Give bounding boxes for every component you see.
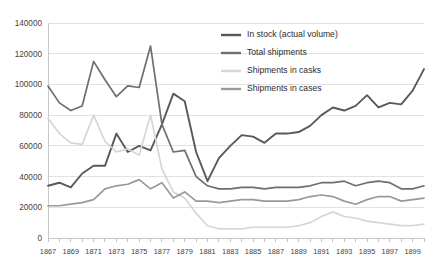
- series-line: [48, 46, 424, 189]
- x-tick-label: 1887: [268, 247, 284, 256]
- x-tick-label: 1879: [177, 247, 193, 256]
- y-tick-label: 80000: [19, 111, 42, 120]
- x-tick-label: 1867: [40, 247, 56, 256]
- legend-label: In stock (actual volume): [247, 29, 338, 39]
- legend-label: Total shipments: [247, 47, 307, 57]
- y-tick-label: 100000: [15, 80, 43, 89]
- x-axis-tick-labels: 1867186918711873187518771879188118831885…: [40, 247, 421, 256]
- y-axis-tick-labels: 020000400006000080000100000120000140000: [15, 19, 43, 243]
- x-tick-label: 1885: [245, 247, 261, 256]
- x-tick-label: 1877: [154, 247, 170, 256]
- x-axis-tickmarks: [48, 238, 424, 242]
- data-series-group: [48, 46, 424, 229]
- x-tick-label: 1869: [63, 247, 79, 256]
- x-tick-label: 1871: [85, 247, 101, 256]
- x-tick-label: 1873: [108, 247, 124, 256]
- series-line: [48, 69, 424, 187]
- series-line: [48, 115, 424, 229]
- y-tick-label: 60000: [19, 142, 42, 151]
- axis-lines: [48, 23, 424, 238]
- x-tick-label: 1895: [359, 247, 375, 256]
- chart-legend: In stock (actual volume)Total shipmentsS…: [221, 29, 338, 93]
- x-tick-label: 1881: [199, 247, 215, 256]
- x-tick-label: 1897: [382, 247, 398, 256]
- legend-label: Shipments in cases: [247, 83, 322, 93]
- y-tick-label: 140000: [15, 19, 43, 28]
- series-line: [48, 180, 424, 206]
- legend-label: Shipments in casks: [247, 65, 321, 75]
- y-tick-label: 0: [37, 234, 42, 243]
- x-tick-label: 1875: [131, 247, 147, 256]
- chart-canvas: 020000400006000080000100000120000140000 …: [0, 0, 437, 268]
- x-tick-label: 1883: [222, 247, 238, 256]
- y-tick-label: 120000: [15, 50, 43, 59]
- x-tick-label: 1893: [336, 247, 352, 256]
- line-chart: 020000400006000080000100000120000140000 …: [0, 0, 437, 268]
- x-tick-label: 1891: [313, 247, 329, 256]
- y-tick-label: 20000: [19, 203, 42, 212]
- x-tick-label: 1889: [290, 247, 306, 256]
- x-tick-label: 1899: [404, 247, 420, 256]
- gridlines: [48, 23, 424, 238]
- y-tick-label: 40000: [19, 173, 42, 182]
